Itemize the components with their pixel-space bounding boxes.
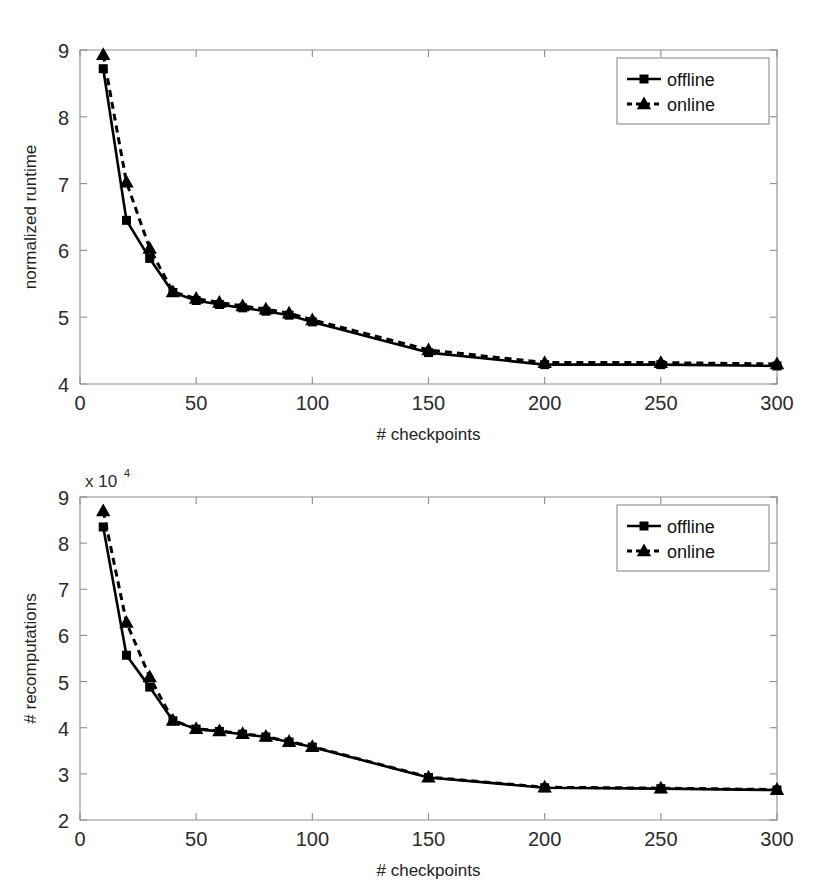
y-axis-title: normalized runtime: [21, 145, 40, 290]
x-tick-label: 300: [760, 392, 793, 414]
legend-label-offline: offline: [667, 70, 715, 90]
x-tick-label: 150: [412, 392, 445, 414]
x-tick-label: 250: [644, 828, 677, 850]
y-tick-label: 8: [58, 107, 69, 129]
data-point-online: [143, 670, 157, 683]
x-tick-label: 100: [296, 828, 329, 850]
data-point-online: [537, 355, 551, 368]
axis-exponent-label: x 10: [85, 472, 117, 491]
y-tick-label: 6: [58, 625, 69, 647]
legend-marker-square-icon: [640, 522, 649, 531]
x-tick-label: 50: [185, 392, 207, 414]
legend-label-offline: offline: [667, 517, 715, 537]
data-point-offline: [122, 216, 131, 225]
x-tick-label: 200: [528, 828, 561, 850]
x-tick-label: 250: [644, 392, 677, 414]
legend-label-online: online: [667, 542, 715, 562]
data-point-offline: [122, 651, 131, 660]
figure-root: 050100150200250300456789# checkpointsnor…: [0, 0, 827, 895]
data-point-online: [96, 503, 110, 516]
y-tick-label: 6: [58, 240, 69, 262]
y-tick-label: 5: [58, 307, 69, 329]
y-tick-label: 4: [58, 374, 69, 396]
y-tick-label: 4: [58, 718, 69, 740]
chart-panel-recomputations: 05010015020025030023456789x 104# checkpo…: [0, 445, 827, 895]
x-tick-label: 0: [74, 392, 85, 414]
data-point-online: [143, 241, 157, 254]
y-axis-title: # recomputations: [21, 593, 40, 723]
chart-panel-normalized-runtime: 050100150200250300456789# checkpointsnor…: [0, 0, 827, 445]
x-tick-label: 100: [296, 392, 329, 414]
y-tick-label: 5: [58, 672, 69, 694]
axis-exponent-power: 4: [124, 467, 130, 479]
y-tick-label: 7: [58, 174, 69, 196]
legend-marker-square-icon: [640, 75, 649, 84]
x-tick-label: 0: [74, 828, 85, 850]
x-tick-label: 50: [185, 828, 207, 850]
x-tick-label: 300: [760, 828, 793, 850]
y-tick-label: 7: [58, 579, 69, 601]
x-axis-title: # checkpoints: [377, 425, 481, 444]
y-tick-label: 9: [58, 487, 69, 509]
y-tick-label: 2: [58, 810, 69, 832]
legend-label-online: online: [667, 95, 715, 115]
plot-area-bottom: 05010015020025030023456789x 104# checkpo…: [0, 445, 827, 895]
x-axis-title: # checkpoints: [377, 861, 481, 880]
y-tick-label: 3: [58, 764, 69, 786]
y-tick-label: 9: [58, 40, 69, 62]
data-point-online: [96, 47, 110, 60]
x-tick-label: 150: [412, 828, 445, 850]
y-tick-label: 8: [58, 533, 69, 555]
plot-area-top: 050100150200250300456789# checkpointsnor…: [0, 0, 827, 445]
x-tick-label: 200: [528, 392, 561, 414]
